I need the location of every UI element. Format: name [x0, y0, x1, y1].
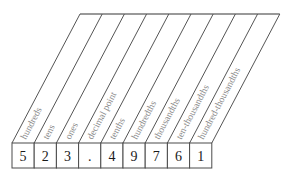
digit-value-4: 4	[108, 149, 115, 164]
digit-value-6: 7	[153, 149, 160, 164]
digit-value-7: 6	[175, 149, 182, 164]
digit-box-group: 523.49761	[12, 143, 212, 168]
digit-value-5: 9	[131, 149, 138, 164]
digit-value-1: 2	[42, 149, 49, 164]
place-value-chart: hundredstensonesdecimal pointtenthshundr…	[0, 0, 293, 177]
place-value-diagram: hundredstensonesdecimal pointtenthshundr…	[0, 0, 293, 177]
digit-value-3: .	[88, 149, 92, 164]
digit-value-8: 1	[197, 149, 204, 164]
digit-value-2: 3	[64, 149, 71, 164]
digit-value-0: 5	[20, 149, 27, 164]
